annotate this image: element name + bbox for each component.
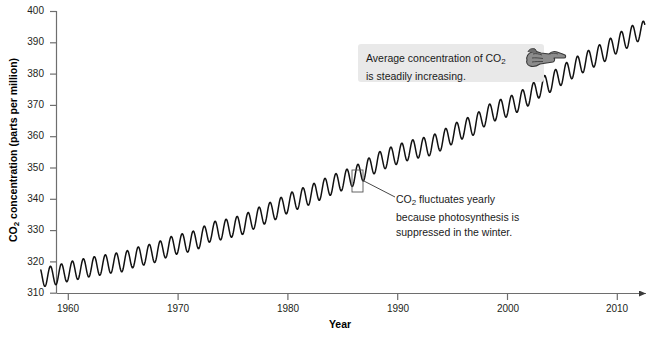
pointing-hand-icon <box>524 40 568 78</box>
co2-concentration-chart: 400 390 380 370 360 350 340 330 320 310 … <box>0 0 656 338</box>
average-increase-callout-text: Average concentration of CO2 is steadily… <box>366 51 526 83</box>
x-tick-label-1980: 1980 <box>268 303 308 314</box>
y-tick-label-310: 310 <box>18 287 44 298</box>
x-tick-label-2000: 2000 <box>488 303 528 314</box>
y-tick-label-320: 320 <box>18 256 44 267</box>
y-tick-label-370: 370 <box>18 99 44 110</box>
note-leader-line <box>362 180 395 197</box>
note-line-3: suppressed in the winter. <box>396 226 512 238</box>
x-tick-label-1960: 1960 <box>48 303 88 314</box>
y-axis-title-text: CO2 concentration (parts per million) <box>7 58 19 242</box>
note-line-2: because photosynthesis is <box>396 211 519 223</box>
y-tick-label-350: 350 <box>18 162 44 173</box>
x-axis-title: Year <box>300 318 380 330</box>
y-tick-label-380: 380 <box>18 68 44 79</box>
y-axis-ticks <box>50 12 57 294</box>
x-tick-label-1970: 1970 <box>158 303 198 314</box>
y-tick-label-340: 340 <box>18 193 44 204</box>
x-tick-label-1990: 1990 <box>378 303 418 314</box>
y-tick-label-330: 330 <box>18 224 44 235</box>
y-axis-title: CO2 concentration (parts per million) <box>7 45 21 255</box>
y-tick-label-400: 400 <box>18 5 44 16</box>
note-line-1: CO2 fluctuates yearly <box>396 193 495 205</box>
seasonal-fluctuation-note-text: CO2 fluctuates yearly because photosynth… <box>396 192 566 240</box>
callout-line-1: Average concentration of CO2 <box>366 52 506 64</box>
y-tick-label-390: 390 <box>18 36 44 47</box>
callout-line-2: is steadily increasing. <box>366 70 466 82</box>
x-tick-label-2010: 2010 <box>597 303 637 314</box>
y-tick-label-360: 360 <box>18 130 44 141</box>
x-axis-ticks <box>68 294 617 301</box>
